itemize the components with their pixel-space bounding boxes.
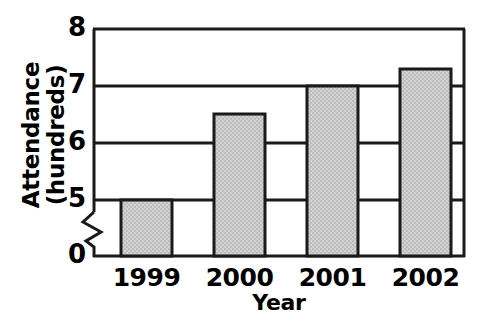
bar-chart: Attendance (hundreds) 8 7 6 5 0 [0,0,481,323]
bar-1999 [121,200,172,256]
bar-2001 [307,86,358,256]
axis-break-zigzag [83,212,101,257]
x-tick-label-1999: 1999 [100,263,193,292]
x-tick-label-2002: 2002 [379,263,472,292]
bar-2000 [214,114,265,256]
x-axis-title: Year [93,290,465,315]
bars [121,69,451,256]
bar-2002 [400,69,451,256]
x-tick-label-2001: 2001 [286,263,379,292]
x-tick-label-2000: 2000 [193,263,286,292]
